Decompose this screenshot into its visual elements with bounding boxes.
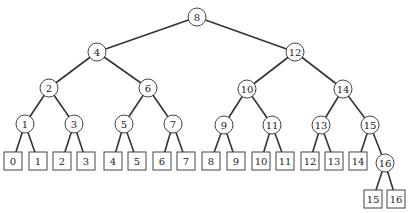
node-label: 15 <box>364 120 377 131</box>
leaf-node: 7 <box>177 152 195 170</box>
node-label: 8 <box>194 12 200 23</box>
node-label: 11 <box>266 120 279 131</box>
internal-node: 6 <box>139 79 157 97</box>
internal-node: 5 <box>115 115 133 133</box>
internal-node: 16 <box>376 154 394 172</box>
node-label: 2 <box>59 156 65 167</box>
node-label: 2 <box>46 83 52 94</box>
internal-node: 12 <box>286 43 304 61</box>
leaf-node: 15 <box>364 190 382 208</box>
internal-node: 8 <box>188 8 206 26</box>
internal-node: 4 <box>88 43 106 61</box>
internal-node: 3 <box>65 115 83 133</box>
internal-node: 7 <box>164 115 182 133</box>
node-label: 12 <box>304 156 317 167</box>
node-label: 1 <box>35 156 41 167</box>
internal-node: 15 <box>361 116 379 134</box>
leaf-node: 2 <box>53 152 71 170</box>
node-label: 9 <box>221 120 227 131</box>
leaf-node: 5 <box>128 152 146 170</box>
leaf-node: 9 <box>227 152 245 170</box>
internal-node: 1 <box>16 115 34 133</box>
internal-node: 10 <box>238 80 256 98</box>
leaf-node: 4 <box>104 152 122 170</box>
leaf-node: 11 <box>276 152 294 170</box>
node-label: 15 <box>367 194 380 205</box>
node-label: 4 <box>110 156 116 167</box>
internal-node: 14 <box>334 80 352 98</box>
leaf-node: 3 <box>77 152 95 170</box>
tree-diagram: 8412261014135791113151601234567891011121… <box>0 0 412 213</box>
node-label: 0 <box>10 156 16 167</box>
node-label: 16 <box>390 194 403 205</box>
node-label: 14 <box>352 156 365 167</box>
node-label: 7 <box>170 119 176 130</box>
leaf-node: 14 <box>349 152 367 170</box>
node-label: 14 <box>337 84 350 95</box>
node-label: 1 <box>22 119 28 130</box>
tree-edges <box>13 17 396 199</box>
node-label: 8 <box>208 156 214 167</box>
node-label: 6 <box>145 83 151 94</box>
tree-edge <box>197 17 295 52</box>
tree-nodes: 8412261014135791113151601234567891011121… <box>4 8 405 208</box>
node-label: 5 <box>134 156 140 167</box>
leaf-node: 8 <box>202 152 220 170</box>
node-label: 3 <box>83 156 89 167</box>
node-label: 13 <box>315 120 328 131</box>
node-label: 9 <box>233 156 239 167</box>
node-label: 10 <box>241 84 254 95</box>
node-label: 10 <box>255 156 268 167</box>
node-label: 3 <box>71 119 77 130</box>
node-label: 11 <box>279 156 292 167</box>
internal-node: 2 <box>40 79 58 97</box>
leaf-node: 12 <box>301 152 319 170</box>
internal-node: 9 <box>215 116 233 134</box>
node-label: 13 <box>328 156 341 167</box>
leaf-node: 1 <box>29 152 47 170</box>
tree-edge <box>97 17 197 52</box>
node-label: 5 <box>121 119 127 130</box>
node-label: 7 <box>183 156 189 167</box>
leaf-node: 13 <box>325 152 343 170</box>
tree-canvas: 8412261014135791113151601234567891011121… <box>0 0 412 213</box>
leaf-node: 0 <box>4 152 22 170</box>
internal-node: 11 <box>263 116 281 134</box>
internal-node: 13 <box>312 116 330 134</box>
node-label: 4 <box>94 47 100 58</box>
node-label: 6 <box>159 156 165 167</box>
node-label: 12 <box>289 47 302 58</box>
leaf-node: 6 <box>153 152 171 170</box>
node-label: 16 <box>379 158 392 169</box>
leaf-node: 16 <box>387 190 405 208</box>
leaf-node: 10 <box>252 152 270 170</box>
